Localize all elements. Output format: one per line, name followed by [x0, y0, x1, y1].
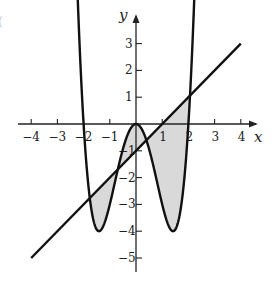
- y-tick-label: 1: [125, 90, 133, 104]
- shaded-regions: [91, 86, 190, 231]
- x-tick-label: −1: [101, 130, 119, 144]
- y-tick-label: 2: [125, 63, 133, 77]
- x-tick-label: −4: [22, 130, 40, 144]
- shaded-area: [91, 86, 190, 231]
- x-axis-label: x: [254, 128, 263, 146]
- x-tick-label: 1: [159, 130, 167, 144]
- function-graph: ( −4−3−2−11234 321−1−2−3−4−5 x y: [0, 0, 277, 284]
- y-tick-label: −2: [118, 171, 136, 185]
- y-tick-label: 3: [125, 37, 133, 51]
- y-tick-label: −4: [118, 224, 136, 238]
- x-tick-label: 3: [212, 130, 220, 144]
- y-tick-label: −3: [118, 197, 136, 211]
- y-axis-label: y: [118, 6, 128, 24]
- x-tick-label: −3: [48, 130, 66, 144]
- cropped-label-mark: (: [0, 15, 3, 29]
- y-tick-label: −5: [118, 251, 136, 265]
- x-tick-label: 4: [238, 130, 246, 144]
